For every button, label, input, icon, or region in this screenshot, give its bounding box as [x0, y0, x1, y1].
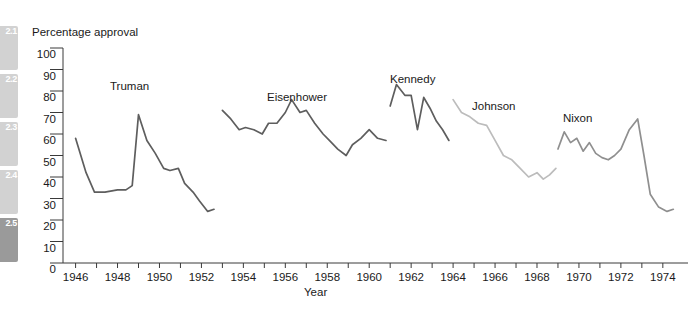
x-tick-label: 1962	[391, 272, 431, 283]
series-line-nixon	[558, 119, 673, 211]
y-tick-label: 60	[30, 135, 56, 146]
y-tick-label: 10	[30, 243, 56, 254]
x-tick-label: 1974	[643, 272, 683, 283]
series-polylines	[76, 85, 674, 212]
y-tick-label: 80	[30, 92, 56, 103]
x-tick-label: 1948	[98, 272, 138, 283]
x-tick-label: 1972	[601, 272, 641, 283]
y-tick-label: 20	[30, 221, 56, 232]
x-tick-label: 1950	[139, 272, 179, 283]
series-label-nixon: Nixon	[563, 112, 592, 124]
series-label-johnson: Johnson	[472, 100, 515, 112]
y-tick-label: 30	[30, 200, 56, 211]
series-label-truman: Truman	[110, 80, 149, 92]
y-tick-label: 90	[30, 71, 56, 82]
horizontal-scrollbar-track[interactable]	[0, 309, 694, 321]
x-tick-label: 1958	[307, 272, 347, 283]
y-tick-label: 100	[30, 49, 56, 60]
x-tick-label: 1964	[433, 272, 473, 283]
x-tick-label: 1960	[349, 272, 389, 283]
y-tick-label: 0	[30, 264, 56, 275]
series-line-kennedy	[390, 85, 449, 141]
series-label-eisenhower: Eisenhower	[267, 91, 327, 103]
series-line-truman	[76, 115, 214, 212]
x-tick-label: 1952	[181, 272, 221, 283]
y-tick-label: 70	[30, 114, 56, 125]
series-label-kennedy: Kennedy	[390, 73, 435, 85]
x-tick-label: 1970	[559, 272, 599, 283]
y-tick-label: 40	[30, 178, 56, 189]
x-tick-label: 1968	[517, 272, 557, 283]
x-tick-label: 1946	[56, 272, 96, 283]
series-line-eisenhower	[222, 100, 386, 156]
y-tick-label: 50	[30, 157, 56, 168]
x-tick-label: 1954	[223, 272, 263, 283]
x-tick-label: 1956	[265, 272, 305, 283]
approval-rating-chart: Percentage approval Year 010203040506070…	[0, 0, 694, 325]
x-tick-label: 1966	[475, 272, 515, 283]
